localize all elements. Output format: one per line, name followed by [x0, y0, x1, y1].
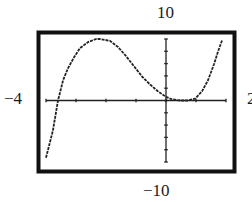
graph-screen [0, 0, 252, 202]
